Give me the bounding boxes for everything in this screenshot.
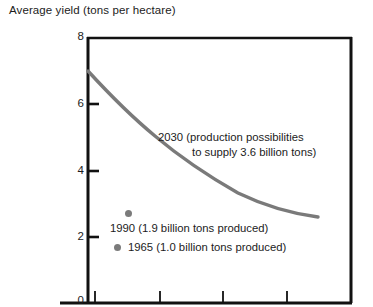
annotation-2030-line2: to supply 3.6 billion tons) bbox=[158, 146, 316, 160]
data-point-1990-marker bbox=[125, 210, 132, 217]
y-axis-label-6: 6 bbox=[62, 98, 84, 110]
y-axis-label-8: 8 bbox=[62, 31, 84, 43]
y-axis-label-2: 2 bbox=[62, 231, 84, 243]
data-point-1990-label: 1990 (1.9 billion tons produced) bbox=[110, 222, 268, 236]
annotation-2030-line1: 2030 (production possibilities bbox=[158, 131, 304, 145]
data-point-1965-label: 1965 (1.0 billion tons produced) bbox=[128, 241, 286, 255]
y-axis-label-0: 0 bbox=[62, 295, 84, 307]
chart-figure: Average yield (tons per hectare) 8 6 4 2… bbox=[0, 0, 373, 307]
data-point-1965-marker bbox=[114, 244, 121, 251]
y-axis-label-4: 4 bbox=[62, 165, 84, 177]
